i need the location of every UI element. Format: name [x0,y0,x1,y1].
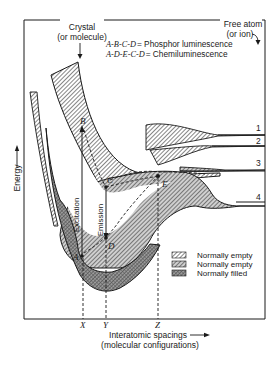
level-3-number: 3 [256,158,261,168]
point-a-label: A [72,252,79,262]
level-4-number: 4 [256,192,261,202]
equation-chemi: A-D-E-C-D= Chemiluminescence [105,49,228,59]
energy-diagram: Crystal (or molecule) Free atom (or ion)… [0,0,280,367]
x-axis-label-sub: (molecular configurations) [101,340,199,350]
level-2-band [150,146,265,165]
free-atom-label: Free atom [224,19,263,29]
point-e [156,174,160,178]
point-c-label: C [107,175,114,185]
point-a [80,254,84,258]
level-2-number: 2 [256,136,261,146]
energy-axis-label: Energy [12,145,22,191]
legend-label-3: Normally filled [197,269,247,278]
marker-z-label: Z [155,320,161,330]
point-b-label: B [80,116,86,126]
legend-swatch-light [172,252,186,258]
free-atom-label-sub: (or ion) [227,29,254,39]
legend-label-1: Normally empty [197,251,253,260]
excitation-label: Excitation [72,198,81,233]
x-axis-label: Interatomic spacings [109,330,187,340]
point-d [104,236,108,240]
x-axis-arrow-icon [190,333,210,337]
crystal-label: Crystal [69,22,96,32]
equation-phosphor: A-B-C-D= Phosphor luminescence [105,39,233,49]
crystal-label-sub: (or molecule) [57,32,107,42]
point-e-label: E [161,179,168,189]
point-d-label: D [107,241,115,251]
emission-label: Emission [96,204,105,236]
level-1-number: 1 [256,123,261,133]
legend: Normally empty Normally empty Normally f… [172,251,253,278]
legend-swatch-dense [172,270,186,276]
marker-x-label: X [79,320,86,330]
point-c [104,185,108,189]
crystal-arrow-icon [78,43,83,59]
legend-swatch-medium [172,261,186,267]
left-sliver-band [30,92,58,226]
marker-y-label: Y [103,320,109,330]
legend-label-2: Normally empty [197,260,253,269]
